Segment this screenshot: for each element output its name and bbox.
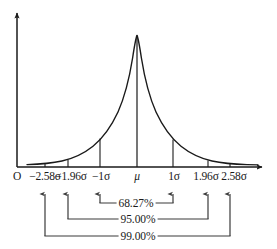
axis-label-pos1: 1σ (168, 170, 180, 182)
axis-label-neg196: −1.96σ (55, 170, 87, 182)
normal-curve (27, 35, 258, 165)
axis-label-pos196: 1.96σ (193, 170, 218, 182)
axis-label-neg1: −1σ (92, 170, 110, 182)
chart-canvas (0, 0, 277, 249)
interval-label-6827: 68.27% (117, 197, 156, 209)
axis-label-mu: μ (134, 170, 140, 182)
interval-label-9500: 95.00% (119, 213, 158, 225)
axis-label-origin: O (13, 170, 21, 182)
interval-label-9900: 99.00% (119, 230, 158, 242)
normal-distribution-figure: O −2.58σ −1.96σ −1σ μ 1σ 1.96σ 2.58σ 68.… (0, 0, 277, 249)
axis-label-pos258: 2.58σ (221, 170, 246, 182)
